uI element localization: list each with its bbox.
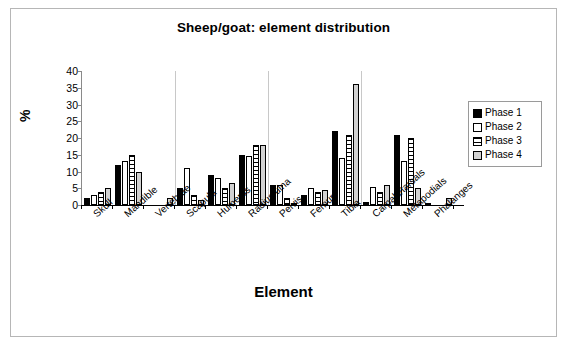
- legend-item: Phase 4: [473, 148, 538, 162]
- bar: [353, 84, 359, 205]
- y-tick-mark: [78, 88, 81, 89]
- bar: [115, 165, 121, 205]
- y-tick-label: 25: [56, 116, 78, 126]
- x-tick-mark: [298, 205, 299, 209]
- group-separator: [361, 71, 362, 205]
- x-tick-mark: [422, 205, 423, 209]
- legend-swatch-icon: [473, 109, 482, 118]
- bar: [339, 158, 345, 205]
- legend-swatch-icon: [473, 151, 482, 160]
- legend-item: Phase 1: [473, 106, 538, 120]
- x-tick-mark: [391, 205, 392, 209]
- y-axis-label: %: [17, 110, 33, 122]
- x-tick-mark: [112, 205, 113, 209]
- legend-label: Phase 2: [485, 122, 522, 132]
- y-tick-mark: [78, 71, 81, 72]
- y-tick-mark: [78, 105, 81, 106]
- legend-swatch-icon: [473, 137, 482, 146]
- y-tick-label: 0: [56, 200, 78, 210]
- y-tick-mark: [78, 172, 81, 173]
- bar: [253, 145, 259, 205]
- legend-label: Phase 3: [485, 136, 522, 146]
- bar: [91, 195, 97, 205]
- legend-label: Phase 4: [485, 150, 522, 160]
- y-tick-label: 10: [56, 167, 78, 177]
- legend-swatch-icon: [473, 123, 482, 132]
- x-tick-mark: [174, 205, 175, 209]
- y-tick-mark: [78, 138, 81, 139]
- bar: [84, 198, 90, 205]
- bar: [122, 161, 128, 205]
- legend-item: Phase 3: [473, 134, 538, 148]
- x-tick-mark: [205, 205, 206, 209]
- x-tick-mark: [143, 205, 144, 209]
- y-tick-mark: [78, 188, 81, 189]
- bar: [129, 155, 135, 205]
- y-tick-label: 5: [56, 183, 78, 193]
- x-tick-mark: [360, 205, 361, 209]
- x-tick-mark: [267, 205, 268, 209]
- group-separator: [175, 71, 176, 205]
- y-tick-label: 15: [56, 150, 78, 160]
- chart-figure: Sheep/goat: element distribution % 40353…: [0, 0, 567, 345]
- legend: Phase 1Phase 2Phase 3Phase 4: [468, 101, 542, 167]
- bar: [308, 188, 314, 205]
- y-tick-label: 35: [56, 83, 78, 93]
- bar: [370, 187, 376, 205]
- y-tick-label: 30: [56, 100, 78, 110]
- bar: [346, 135, 352, 205]
- group-separator: [268, 71, 269, 205]
- x-tick-mark: [453, 205, 454, 209]
- y-tick-label: 20: [56, 133, 78, 143]
- x-tick-mark: [81, 205, 82, 209]
- legend-label: Phase 1: [485, 108, 522, 118]
- bar: [246, 156, 252, 205]
- legend-item: Phase 2: [473, 120, 538, 134]
- y-tick-mark: [78, 121, 81, 122]
- x-tick-mark: [236, 205, 237, 209]
- x-axis-label: Element: [0, 283, 567, 300]
- y-tick-label: 40: [56, 66, 78, 76]
- x-tick-mark: [329, 205, 330, 209]
- bar: [332, 131, 338, 205]
- y-tick-mark: [78, 155, 81, 156]
- chart-title: Sheep/goat: element distribution: [0, 20, 567, 35]
